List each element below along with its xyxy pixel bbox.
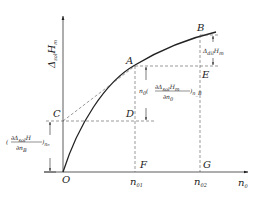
svg-text:ΔsolHm: ΔsolHm (46, 40, 58, 69)
enthalpy-curve (63, 32, 216, 172)
svg-text:∂ΔsolHm: ∂ΔsolHm (155, 83, 180, 92)
tangent-line (63, 66, 135, 121)
y-axis-label: ΔsolHm (46, 40, 58, 69)
label-E: E (201, 69, 210, 80)
label-A: A (125, 55, 133, 66)
svg-text:∂nB: ∂nB (16, 144, 27, 153)
label-C: C (53, 108, 61, 119)
svg-text:(: ( (6, 138, 9, 145)
svg-text:n0(: n0( (139, 87, 149, 96)
label-F: F (139, 159, 148, 170)
label-G: G (203, 159, 211, 170)
svg-text:∂n0: ∂n0 (163, 93, 174, 102)
svg-text:)n_B: )n_B (189, 87, 202, 97)
intercept-term: ( ∂ΔsolH ∂nB )n₀ (6, 134, 50, 153)
dil-term: ΔdilHm (202, 47, 224, 56)
x-axis-label: n0 (238, 177, 248, 189)
label-O: O (62, 174, 70, 185)
label-B: B (196, 22, 204, 33)
label-D: D (125, 108, 134, 119)
tick-n01: n01 (130, 176, 143, 188)
svg-text:∂ΔsolH: ∂ΔsolH (11, 134, 32, 143)
slope-term: n0( ∂ΔsolHm ∂n0 )n_B (139, 83, 202, 102)
svg-text:)n₀: )n₀ (41, 138, 50, 147)
tick-n02: n02 (194, 176, 207, 188)
enthalpy-diagram: O A B C D E F G ΔsolHm n0 n01 n02 ( ∂Δso… (0, 0, 258, 199)
svg-text:ΔdilHm: ΔdilHm (202, 47, 224, 56)
